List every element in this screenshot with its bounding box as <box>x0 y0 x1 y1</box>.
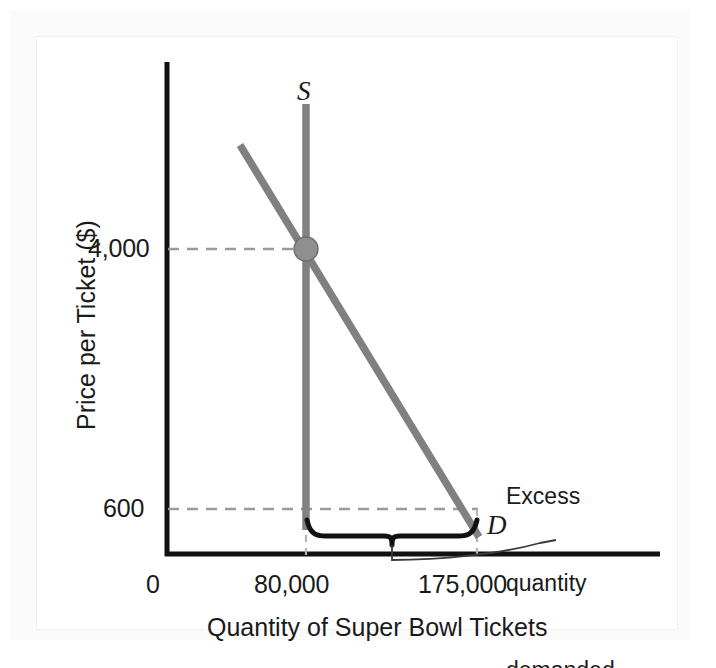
shortage-annotation-line-2: quantity <box>506 569 629 598</box>
demand-curve-label: D <box>487 512 507 539</box>
origin-label: 0 <box>146 572 160 597</box>
shortage-annotation-line-3: demanded <box>506 656 629 668</box>
x-tick-label-175000: 175,000 <box>418 572 507 597</box>
shortage-annotation-line-1: Excess <box>506 482 629 511</box>
figure-root: Price per Ticket ($) 4,000 600 0 80,000 … <box>0 0 716 668</box>
x-axis-title: Quantity of Super Bowl Tickets <box>207 615 547 640</box>
y-tick-label-4000: 4,000 <box>88 236 150 261</box>
demand-curve <box>240 145 479 537</box>
reference-lines <box>168 249 478 556</box>
equilibrium-point-marker <box>294 237 318 261</box>
shortage-annotation: Excess quantity demanded (shortage at $6… <box>506 424 629 668</box>
x-tick-label-80000: 80,000 <box>254 572 329 597</box>
y-tick-label-600: 600 <box>103 496 144 521</box>
shortage-brace <box>307 520 477 545</box>
supply-curve-label: S <box>297 78 311 105</box>
